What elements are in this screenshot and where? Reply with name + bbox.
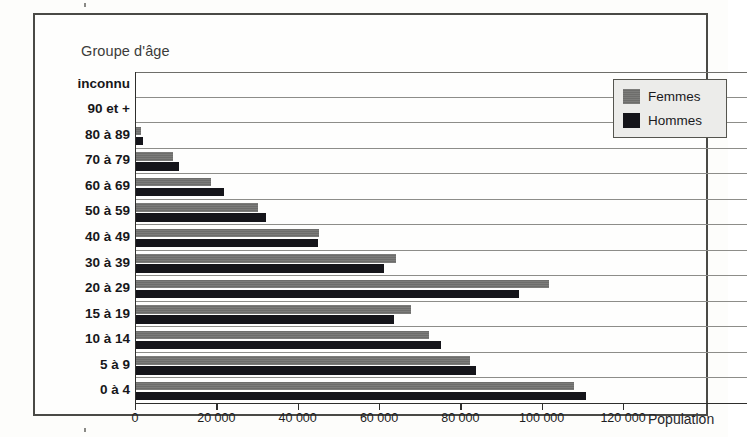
y-axis-tick-label: 50 à 59	[38, 203, 130, 218]
y-axis-tick-label: 80 à 89	[38, 127, 130, 142]
chart-category-row: 60 à 69	[136, 174, 747, 200]
bar-hommes[interactable]	[136, 213, 266, 222]
y-axis-tick-label: 90 et +	[38, 101, 130, 116]
x-axis-tick-label: 0	[132, 411, 139, 425]
x-axis-tick	[379, 404, 380, 410]
bar-femmes[interactable]	[136, 254, 396, 263]
bar-femmes[interactable]	[136, 152, 173, 161]
y-axis-tick-label: 20 à 29	[38, 280, 130, 295]
x-axis-tick-label: 100 000	[519, 411, 564, 425]
bar-hommes[interactable]	[136, 239, 318, 248]
legend-item-femmes[interactable]: Femmes	[623, 86, 701, 106]
chart-category-row: 0 à 4	[136, 378, 747, 404]
chart-legend[interactable]: Femmes Hommes	[613, 79, 727, 138]
chart-category-row: 10 à 14	[136, 327, 747, 353]
y-axis-tick-label: 70 à 79	[38, 152, 130, 167]
y-axis-tick-label: 60 à 69	[38, 178, 130, 193]
y-axis-tick-label: 10 à 14	[38, 331, 130, 346]
chart-category-row: 30 à 39	[136, 251, 747, 277]
x-axis-tick	[216, 404, 217, 410]
bar-femmes[interactable]	[136, 305, 411, 314]
bar-femmes[interactable]	[136, 203, 258, 212]
chart-frame: Groupe d'âge inconnu90 et +80 à 8970 à 7…	[33, 13, 708, 416]
x-axis-tick-label: 60 000	[360, 411, 398, 425]
x-axis-title: Population	[648, 411, 714, 427]
x-axis-tick	[542, 404, 543, 410]
y-axis-tick-label: 5 à 9	[38, 357, 130, 372]
y-axis-tick-label: 15 à 19	[38, 306, 130, 321]
y-axis-tick-label: 0 à 4	[38, 382, 130, 397]
x-axis-tick-label: 120 000	[600, 411, 645, 425]
y-axis-caption: Groupe d'âge	[81, 43, 170, 59]
legend-item-hommes[interactable]: Hommes	[623, 110, 702, 130]
chart-category-row: 50 à 59	[136, 200, 747, 226]
scan-artifact-top	[84, 3, 86, 7]
bar-femmes[interactable]	[136, 178, 211, 187]
legend-swatch-hommes-icon	[623, 113, 640, 128]
bar-hommes[interactable]	[136, 315, 394, 324]
x-axis-tick	[623, 404, 624, 410]
bar-femmes[interactable]	[136, 331, 429, 340]
y-axis-tick-label: inconnu	[38, 76, 130, 91]
bar-femmes[interactable]	[136, 229, 319, 238]
bar-hommes[interactable]	[136, 366, 476, 375]
bar-hommes[interactable]	[136, 137, 143, 146]
chart-category-row: 5 à 9	[136, 353, 747, 379]
y-axis-tick-label: 40 à 49	[38, 229, 130, 244]
bar-femmes[interactable]	[136, 127, 141, 136]
bar-hommes[interactable]	[136, 162, 179, 171]
chart-category-row: 40 à 49	[136, 225, 747, 251]
chart-category-row: 15 à 19	[136, 302, 747, 328]
x-axis-tick-label: 40 000	[279, 411, 317, 425]
x-axis-tick-label: 20 000	[197, 411, 235, 425]
bar-hommes[interactable]	[136, 264, 384, 273]
legend-swatch-femmes-icon	[623, 89, 640, 104]
x-axis-tick	[460, 404, 461, 410]
scan-artifact-bottom	[84, 428, 86, 432]
bar-hommes[interactable]	[136, 341, 441, 350]
bar-hommes[interactable]	[136, 290, 519, 299]
x-axis-tick	[135, 404, 136, 410]
x-axis: 020 00040 00060 00080 000100 000120 000	[135, 404, 747, 410]
bar-hommes[interactable]	[136, 188, 224, 197]
chart-category-row: 20 à 29	[136, 276, 747, 302]
x-axis-tick-label: 80 000	[441, 411, 479, 425]
chart-category-row: 70 à 79	[136, 149, 747, 175]
bar-femmes[interactable]	[136, 280, 549, 289]
bar-hommes[interactable]	[136, 392, 586, 401]
legend-label-hommes: Hommes	[648, 113, 702, 128]
x-axis-tick	[298, 404, 299, 410]
legend-label-femmes: Femmes	[648, 89, 701, 104]
bar-femmes[interactable]	[136, 356, 470, 365]
bar-femmes[interactable]	[136, 382, 574, 391]
y-axis-tick-label: 30 à 39	[38, 255, 130, 270]
